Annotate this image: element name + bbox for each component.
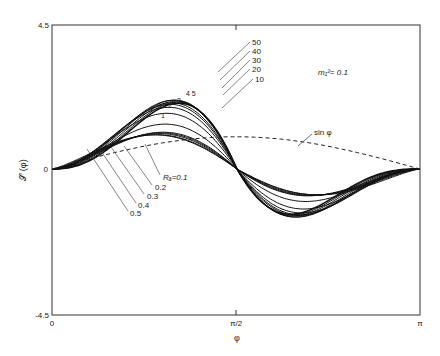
svg-text:40: 40	[252, 47, 261, 56]
svg-text:2: 2	[168, 102, 172, 109]
curve-2	[52, 113, 420, 209]
curve-5	[52, 103, 420, 216]
plot-frame	[52, 25, 420, 315]
chart: 4.5 0 -4.5 0 π/2 π φ 𝒮 (φ) m₁²= 0.1 sin …	[0, 0, 440, 356]
sin-label: sin φ	[314, 128, 332, 137]
sin-leader	[298, 134, 312, 146]
svg-text:1: 1	[161, 112, 165, 119]
high-ra-labels: 50 40 30 20 10	[218, 38, 264, 108]
y-tick-zero: 0	[44, 165, 49, 174]
svg-text:Rₐ=0.1: Rₐ=0.1	[163, 173, 187, 182]
y-tick-top: 4.5	[38, 21, 50, 30]
svg-text:0.2: 0.2	[155, 183, 167, 192]
curve-1	[52, 124, 420, 201]
curves	[52, 100, 420, 217]
x-tick-mid-label: π/2	[230, 319, 243, 328]
x-tick-end: π	[417, 319, 423, 328]
svg-text:50: 50	[252, 38, 261, 47]
curve-10	[52, 100, 420, 217]
curve-20	[52, 100, 420, 217]
curve-40	[52, 102, 420, 215]
svg-text:20: 20	[252, 65, 261, 74]
svg-text:3: 3	[177, 97, 181, 104]
param-annotation: m₁²= 0.1	[318, 68, 348, 77]
y-tick-bottom: -4.5	[35, 311, 49, 320]
low-ra-labels: Rₐ=0.1 0.2 0.3 0.4 0.5	[87, 144, 187, 218]
svg-text:0.3: 0.3	[147, 192, 159, 201]
x-tick-zero: 0	[50, 319, 55, 328]
curve-4	[52, 104, 420, 215]
svg-text:30: 30	[252, 56, 261, 65]
x-axis-label: φ	[234, 333, 240, 343]
curve-30	[52, 101, 420, 216]
y-axis-label: 𝒮 (φ)	[18, 159, 28, 180]
svg-text:4 5: 4 5	[186, 90, 196, 97]
svg-text:0.5: 0.5	[130, 209, 142, 218]
svg-text:10: 10	[255, 75, 264, 84]
curve-50	[52, 103, 420, 214]
